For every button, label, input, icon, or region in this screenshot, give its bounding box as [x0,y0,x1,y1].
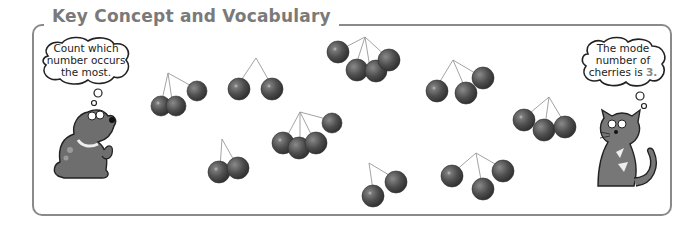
cherry-field [0,0,699,226]
